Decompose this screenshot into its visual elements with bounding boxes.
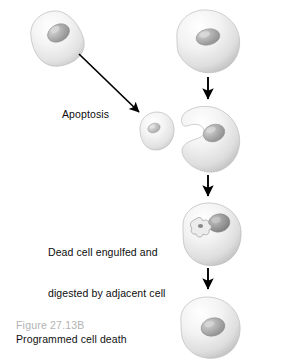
label-dead-cell-engulfed: Dead cell engulfed and digested by adjac… bbox=[48, 219, 166, 327]
label-engulf-line-2: digested by adjacent cell bbox=[48, 287, 166, 301]
figure-caption: Figure 27.13B Programmed cell death bbox=[16, 318, 127, 346]
neighbor-cell-top bbox=[177, 10, 240, 73]
figure-number: Figure 27.13B bbox=[16, 318, 127, 332]
label-engulf-line-1: Dead cell engulfed and bbox=[48, 246, 166, 260]
dead-cell-remnant-nucleus bbox=[198, 224, 203, 228]
cell-with-vesicle bbox=[183, 203, 241, 266]
engulfing-cell-crescent bbox=[181, 106, 239, 172]
arrow-apoptosis-diagonal bbox=[79, 54, 139, 112]
figure-title: Programmed cell death bbox=[16, 332, 127, 346]
cell-after-digestion bbox=[181, 297, 240, 358]
healthy-cell-left bbox=[31, 11, 84, 66]
apoptotic-cell bbox=[140, 112, 174, 150]
label-apoptosis: Apoptosis bbox=[62, 108, 109, 121]
figure-programmed-cell-death: Apoptosis Dead cell engulfed and digeste… bbox=[0, 0, 281, 364]
